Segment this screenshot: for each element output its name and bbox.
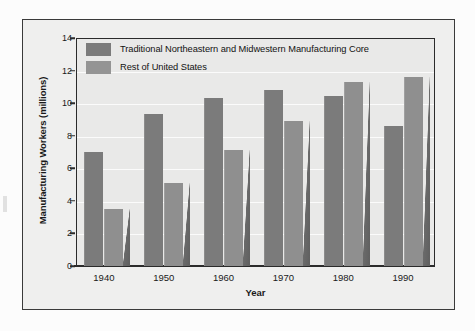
bar-face xyxy=(344,82,363,266)
y-tick-mark xyxy=(70,135,75,137)
x-tick-label: 1970 xyxy=(273,272,294,283)
chart-legend: Traditional Northeastern and Midwestern … xyxy=(86,41,386,77)
bar-shadow xyxy=(183,183,190,266)
bar-rest-1970 xyxy=(284,121,303,266)
bar-face xyxy=(104,209,123,266)
bar-rest-1990 xyxy=(404,77,423,266)
y-tick-label: 8 xyxy=(42,131,72,141)
scan-artifact xyxy=(3,196,7,212)
y-tick-mark xyxy=(70,102,75,104)
x-tick-label: 1960 xyxy=(213,272,234,283)
x-tick-label: 1940 xyxy=(93,272,114,283)
legend-swatch-rest-icon xyxy=(86,61,111,74)
gridline xyxy=(77,104,434,105)
bar-rest-1940 xyxy=(104,209,123,266)
y-tick-mark xyxy=(70,265,75,267)
bar-face xyxy=(324,96,343,266)
x-tick-label: 1980 xyxy=(333,272,354,283)
y-tick-label: 4 xyxy=(42,196,72,206)
bar-face xyxy=(284,121,303,266)
bar-face xyxy=(144,114,163,266)
legend-item-rest: Rest of United States xyxy=(86,59,386,75)
bar-rest-1960 xyxy=(224,150,243,266)
x-tick-label: 1950 xyxy=(153,272,174,283)
bar-shadow xyxy=(123,209,130,266)
y-tick-label: 0 xyxy=(42,261,72,271)
y-tick-mark xyxy=(70,168,75,170)
bar-shadow xyxy=(303,121,310,266)
bar-core-1940 xyxy=(84,152,103,266)
bar-rest-1980 xyxy=(344,82,363,266)
bar-face xyxy=(224,150,243,266)
y-tick-label: 6 xyxy=(42,163,72,173)
legend-item-core: Traditional Northeastern and Midwestern … xyxy=(86,41,386,57)
y-tick-label: 2 xyxy=(42,228,72,238)
y-tick-mark xyxy=(70,200,75,202)
y-tick-mark xyxy=(70,37,75,39)
legend-swatch-core-icon xyxy=(86,43,111,56)
bar-face xyxy=(84,152,103,266)
bar-face xyxy=(164,183,183,266)
bar-face xyxy=(264,90,283,266)
gridline xyxy=(77,137,434,138)
bar-core-1990 xyxy=(384,126,403,266)
gridline xyxy=(77,169,434,170)
bar-shadow xyxy=(243,150,250,266)
bar-core-1970 xyxy=(264,90,283,266)
bar-shadow xyxy=(363,82,370,266)
gridline xyxy=(77,234,434,235)
x-tick-label: 1990 xyxy=(393,272,414,283)
bar-face xyxy=(204,98,223,266)
bar-face xyxy=(404,77,423,266)
x-axis-title: Year xyxy=(76,287,435,298)
gridline xyxy=(77,202,434,203)
y-axis-ticks: 02468101214 xyxy=(38,0,72,331)
y-tick-label: 12 xyxy=(42,66,72,76)
y-tick-mark xyxy=(70,233,75,235)
bar-rest-1950 xyxy=(164,183,183,266)
bar-shadow xyxy=(423,77,430,266)
legend-label-rest: Rest of United States xyxy=(120,62,207,72)
y-tick-label: 10 xyxy=(42,98,72,108)
bar-face xyxy=(384,126,403,266)
y-tick-mark xyxy=(70,70,75,72)
bar-core-1980 xyxy=(324,96,343,266)
chart-figure: Manufacturing Workers (millions) 0246810… xyxy=(0,0,475,331)
bar-core-1960 xyxy=(204,98,223,266)
y-tick-label: 14 xyxy=(42,33,72,43)
legend-label-core: Traditional Northeastern and Midwestern … xyxy=(120,44,369,54)
bar-core-1950 xyxy=(144,114,163,266)
